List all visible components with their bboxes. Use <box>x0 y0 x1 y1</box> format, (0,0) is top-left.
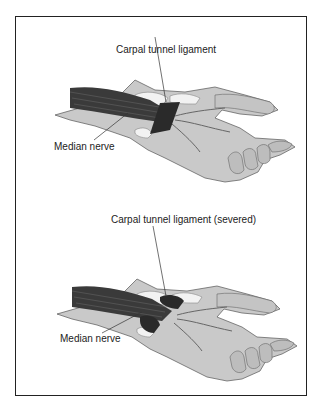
hand-illustration-after <box>57 226 297 381</box>
label-median-nerve-top: Median nerve <box>54 141 115 153</box>
leader-line-ligament-severed <box>153 226 166 296</box>
label-carpal-tunnel-ligament: Carpal tunnel ligament <box>116 44 216 56</box>
label-carpal-tunnel-ligament-severed: Carpal tunnel ligament (severed) <box>111 214 256 226</box>
hand-illustration-before <box>55 37 295 182</box>
illustration <box>0 0 324 415</box>
label-median-nerve-bottom: Median nerve <box>60 333 121 345</box>
